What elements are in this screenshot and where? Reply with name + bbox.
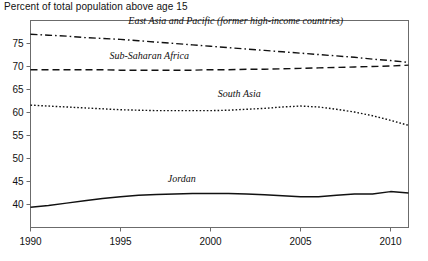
y-tick-label: 40 bbox=[12, 199, 24, 210]
y-axis-ticks: 4045505560657075 bbox=[12, 38, 30, 210]
x-tick-label: 2010 bbox=[379, 236, 402, 247]
series-label-group: East Asia and Pacific (former high-incom… bbox=[110, 15, 344, 183]
series-label: Sub-Saharan Africa bbox=[110, 50, 190, 61]
y-tick-label: 65 bbox=[12, 84, 24, 95]
y-tick-label: 55 bbox=[12, 130, 24, 141]
x-tick-label: 1990 bbox=[19, 236, 42, 247]
y-tick-label: 60 bbox=[12, 107, 24, 118]
y-tick-label: 70 bbox=[12, 61, 24, 72]
x-tick-label: 1995 bbox=[109, 236, 132, 247]
series-line bbox=[31, 105, 409, 125]
line-chart-plot: 4045505560657075 19901995200020052010 Ea… bbox=[0, 0, 428, 261]
series-line bbox=[31, 65, 409, 70]
series-label: South Asia bbox=[218, 88, 261, 99]
x-tick-label: 2005 bbox=[289, 236, 312, 247]
chart-container: Percent of total population above age 15… bbox=[0, 0, 428, 261]
series-line bbox=[31, 192, 409, 208]
data-series-group bbox=[31, 34, 409, 207]
series-label: Jordan bbox=[168, 173, 196, 184]
series-label: East Asia and Pacific (former high-incom… bbox=[127, 15, 343, 27]
x-tick-label: 2000 bbox=[199, 236, 222, 247]
x-axis-ticks: 19901995200020052010 bbox=[19, 228, 402, 247]
plot-frame bbox=[31, 21, 409, 228]
y-tick-label: 50 bbox=[12, 153, 24, 164]
y-tick-label: 45 bbox=[12, 176, 24, 187]
series-line bbox=[31, 34, 409, 62]
y-tick-label: 75 bbox=[12, 38, 24, 49]
